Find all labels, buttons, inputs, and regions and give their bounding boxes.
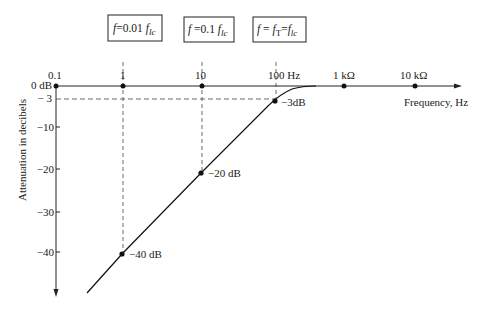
y-tick-minus40: −40 [37, 246, 55, 258]
label-minus3db: −3dB [281, 96, 306, 108]
y-axis-label: Attenuation in decibels [16, 99, 28, 201]
x-tick-100hz: 100 Hz [268, 69, 300, 81]
y-tick-0db: 0 dB [31, 79, 52, 91]
y-tick-labels: 0 dB − 3 −10 −20 −30 −40 [31, 79, 55, 258]
y-tick-minus20: −20 [37, 163, 55, 175]
x-tick-10k: 10 kΩ [400, 69, 427, 81]
annotation-box-ft: f = fT=flc [253, 17, 306, 42]
attenuation-chart: f=0.01 flc f =0.1 flc f = fT=flc 0. [0, 0, 483, 313]
label-minus20db: −20 dB [208, 167, 241, 179]
y-tick-minus30: −30 [37, 206, 55, 218]
x-tick-10: 10 [195, 69, 207, 81]
attenuation-curve [87, 86, 316, 293]
x-axis [56, 84, 462, 89]
y-tick-minus3: − 3 [38, 92, 53, 104]
x-axis-arrow-icon [454, 84, 462, 89]
annotation-box-01: f =0.1 flc [184, 17, 234, 42]
y-tick-minus10: −10 [37, 121, 55, 133]
y-axis [54, 86, 61, 297]
x-tick-1k: 1 kΩ [333, 69, 355, 81]
x-tick-labels: 0.1 1 10 100 Hz 1 kΩ 10 kΩ [48, 69, 427, 81]
x-axis-label: Frequency, Hz [404, 96, 468, 108]
label-minus40db: −40 dB [129, 248, 162, 260]
y-axis-arrow-icon [54, 289, 59, 297]
annotation-box-001: f=0.01 flc [108, 15, 162, 41]
x-tick-1: 1 [120, 69, 126, 81]
point-labels: −40 dB −20 dB −3dB [129, 96, 306, 260]
vertical-guides [123, 62, 276, 254]
